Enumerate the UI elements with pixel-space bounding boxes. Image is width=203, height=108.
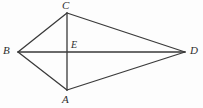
vertex-label-c: C: [62, 0, 69, 11]
figure-canvas: [0, 0, 203, 108]
vertex-label-d: D: [190, 45, 198, 56]
segment-group: [18, 13, 185, 90]
vertex-label-a: A: [62, 94, 69, 105]
segment-da: [67, 52, 185, 90]
geometry-figure: C B D A E: [0, 0, 203, 108]
vertex-label-b: B: [3, 45, 10, 56]
vertex-label-e: E: [71, 39, 77, 50]
segment-bc: [18, 13, 67, 52]
segment-ab: [18, 52, 67, 90]
segment-cd: [67, 13, 185, 52]
